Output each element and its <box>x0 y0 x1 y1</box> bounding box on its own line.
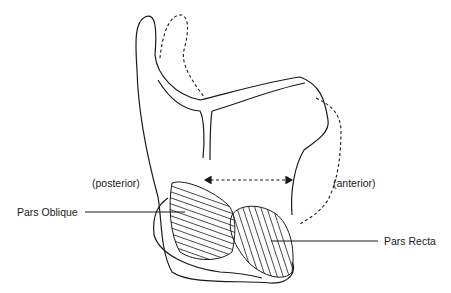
anterior-label: (anterior) <box>333 178 376 189</box>
pars-recta-muscle <box>230 205 298 285</box>
posterior-label: (posterior) <box>92 178 140 189</box>
pars-recta-label: Pars Recta <box>384 236 436 247</box>
pars-oblique-muscle <box>160 182 245 278</box>
outer-cartilage-outline <box>136 16 328 283</box>
pars-oblique-label: Pars Oblique <box>17 207 78 218</box>
cartilage-diagram <box>0 0 451 293</box>
dashed-outline <box>160 15 341 224</box>
